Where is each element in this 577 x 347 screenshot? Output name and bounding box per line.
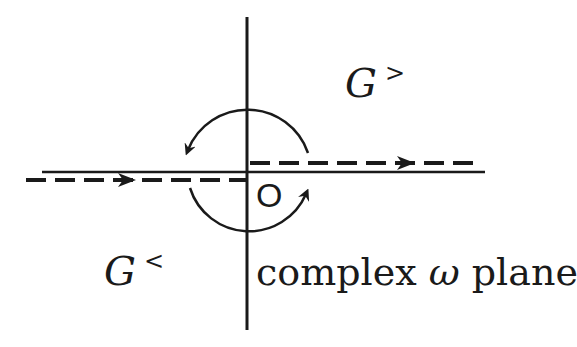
plane-label-suffix: plane xyxy=(472,250,577,294)
origin-label: O xyxy=(256,176,282,215)
g-lesser-symbol: G xyxy=(104,248,136,294)
contour-diagram xyxy=(0,0,577,347)
plane-label: complex ω plane xyxy=(256,250,577,294)
plane-label-prefix: complex xyxy=(256,250,417,294)
g-greater-symbol: G xyxy=(345,60,377,106)
g-lesser-label: G< xyxy=(104,248,164,294)
g-greater-label: G> xyxy=(345,60,405,106)
plane-label-variable: ω xyxy=(429,250,460,294)
g-greater-superscript: > xyxy=(385,59,405,87)
g-lesser-superscript: < xyxy=(144,247,164,275)
